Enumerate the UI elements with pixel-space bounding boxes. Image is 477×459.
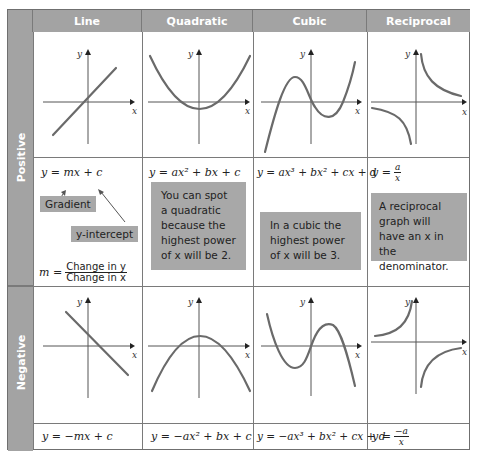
svg-text:y: y	[76, 297, 83, 307]
reciprocal-lhs: y =	[372, 166, 391, 179]
svg-text:x: x	[245, 350, 250, 360]
svg-text:x: x	[355, 106, 360, 116]
svg-text:y: y	[299, 49, 306, 59]
column-header-quadratic: Quadratic	[142, 10, 253, 32]
reciprocal-fraction: −a x	[394, 426, 409, 447]
equation-positive-quadratic: y = ax² + bx + c	[149, 166, 240, 179]
graph-positive-reciprocal: y x	[367, 32, 470, 157]
svg-text:x: x	[462, 107, 467, 117]
equation-negative-reciprocal: y = −a x	[372, 426, 409, 447]
svg-text:y: y	[404, 49, 411, 59]
gradient-label: Gradient	[40, 196, 96, 212]
svg-text:x: x	[132, 350, 137, 360]
svg-text:x: x	[245, 106, 250, 116]
note-reciprocal: A reciprocal graph will have an x in the…	[371, 193, 467, 261]
row-label-negative: Negative	[8, 286, 33, 451]
row-label-positive: Positive	[8, 32, 33, 286]
row-label-positive-text: Positive	[15, 129, 28, 187]
svg-text:y: y	[187, 297, 194, 307]
svg-text:x: x	[355, 350, 360, 360]
graph-negative-cubic: y x	[253, 286, 367, 423]
svg-text:x: x	[462, 347, 467, 357]
gradient-fraction: Change in y Change in x	[65, 262, 127, 283]
equation-negative-quadratic: y = −ax² + bx + c	[151, 430, 252, 443]
column-header-reciprocal: Reciprocal	[367, 10, 470, 32]
fraction-numerator: −a	[394, 426, 409, 437]
graph-positive-quadratic: y x	[142, 32, 253, 157]
gradient-formula: m = Change in y Change in x	[39, 262, 127, 283]
equation-positive-cubic: y = ax³ + bx² + cx + d	[257, 166, 377, 178]
fraction-denominator: x	[395, 173, 400, 183]
reciprocal-lhs: y =	[372, 430, 391, 443]
equation-negative-cubic: y = −ax³ + bx² + cx + d	[257, 430, 385, 442]
gradient-formula-lhs: m =	[39, 266, 62, 279]
svg-text:y: y	[187, 49, 194, 59]
note-cubic: In a cubic the highest power of x will b…	[260, 212, 361, 270]
svg-text:x: x	[132, 106, 137, 116]
note-quadratic: You can spot a quadratic because the hig…	[151, 182, 246, 270]
header-corner	[8, 10, 33, 32]
graph-positive-cubic: y x	[253, 32, 367, 157]
equation-negative-line: y = −mx + c	[42, 430, 113, 443]
equation-positive-reciprocal: y = a x	[372, 162, 401, 183]
row-label-negative-text: Negative	[15, 332, 28, 394]
graph-negative-quadratic: y x	[142, 286, 253, 423]
grid-divider	[33, 423, 469, 424]
fraction-numerator: a	[394, 162, 401, 173]
column-header-cubic: Cubic	[253, 10, 367, 32]
svg-text:y: y	[404, 297, 411, 307]
column-header-line: Line	[33, 10, 142, 32]
svg-text:y: y	[299, 297, 306, 307]
fraction-denominator: Change in x	[66, 273, 126, 283]
graph-types-table: Line Quadratic Cubic Reciprocal Positive…	[7, 9, 470, 450]
y-intercept-label: y-intercept	[71, 226, 138, 242]
svg-text:y: y	[76, 49, 83, 59]
graph-negative-reciprocal: y x	[367, 286, 470, 423]
fraction-denominator: x	[399, 437, 404, 447]
reciprocal-fraction: a x	[394, 162, 401, 183]
graph-negative-line: y x	[33, 286, 142, 423]
graph-positive-line: y x	[33, 32, 142, 157]
